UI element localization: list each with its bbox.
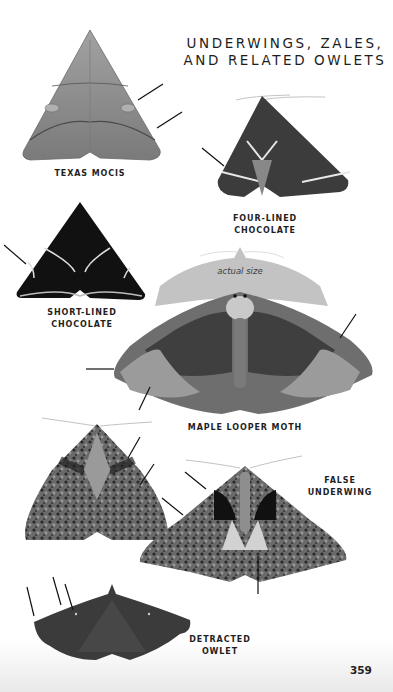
- label-line: FOUR-LINED: [220, 213, 310, 225]
- label-detracted-owlet: DETRACTED OWLET: [180, 634, 260, 658]
- label-line: SHORT-LINED: [37, 307, 127, 319]
- moth-illustrations: [0, 0, 393, 692]
- pointer-arrows: [138, 84, 182, 128]
- label-line: TEXAS MOCIS: [50, 168, 130, 180]
- maple-looper-moth: [114, 292, 373, 414]
- label-maple-looper-moth: MAPLE LOOPER MOTH: [180, 422, 310, 434]
- field-guide-page: UNDERWINGS, ZALES, AND RELATED OWLETS: [0, 0, 393, 692]
- label-short-lined-chocolate: SHORT-LINED CHOCOLATE: [37, 307, 127, 331]
- mottled-underwing-moth: [25, 418, 168, 540]
- detracted-owlet-moth: [34, 584, 190, 660]
- page-number: 359: [350, 664, 372, 676]
- short-lined-chocolate-moth: [17, 202, 146, 300]
- label-line: FALSE: [300, 475, 380, 487]
- label-line: MAPLE LOOPER MOTH: [180, 422, 310, 434]
- texas-mocis-moth: [23, 30, 160, 160]
- label-line: CHOCOLATE: [37, 319, 127, 331]
- label-four-lined-chocolate: FOUR-LINED CHOCOLATE: [220, 213, 310, 237]
- label-line: OWLET: [180, 646, 260, 658]
- label-line: DETRACTED: [180, 634, 260, 646]
- pointer-arrow: [202, 148, 224, 166]
- actual-size-caption: actual size: [200, 266, 280, 276]
- label-line: CHOCOLATE: [220, 225, 310, 237]
- label-line: UNDERWING: [300, 487, 380, 499]
- four-lined-chocolate-moth: [218, 95, 350, 197]
- label-texas-mocis: TEXAS MOCIS: [50, 168, 130, 180]
- pointer-arrow: [4, 245, 26, 264]
- label-false-underwing: FALSE UNDERWING: [300, 475, 380, 499]
